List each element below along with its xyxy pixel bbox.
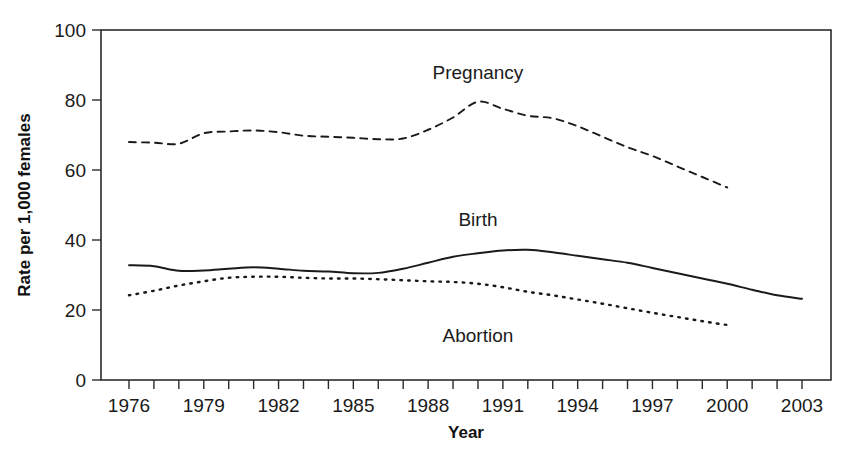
x-tick-label-1985: 1985 bbox=[332, 395, 374, 416]
x-axis-tick-labels: 1976197919821985198819911994199720002003 bbox=[108, 395, 823, 416]
series-label-birth: Birth bbox=[458, 209, 497, 230]
series-line-birth bbox=[129, 250, 802, 299]
line-chart: 020406080100 197619791982198519881991199… bbox=[0, 0, 852, 452]
x-tick-label-1979: 1979 bbox=[183, 395, 225, 416]
series-label-pregnancy: Pregnancy bbox=[433, 62, 524, 83]
series-label-abortion: Abortion bbox=[443, 325, 514, 346]
y-axis-title: Rate per 1,000 females bbox=[15, 113, 34, 296]
x-tick-label-1997: 1997 bbox=[631, 395, 673, 416]
series-annotations: PregnancyBirthAbortion bbox=[433, 62, 524, 346]
y-tick-label-100: 100 bbox=[54, 20, 86, 41]
y-axis-tick-labels: 020406080100 bbox=[54, 20, 86, 391]
x-tick-label-2000: 2000 bbox=[706, 395, 748, 416]
y-tick-label-40: 40 bbox=[65, 230, 86, 251]
y-tick-label-80: 80 bbox=[65, 90, 86, 111]
y-tick-label-60: 60 bbox=[65, 160, 86, 181]
y-axis-ticks bbox=[92, 30, 101, 380]
x-axis-title: Year bbox=[448, 423, 484, 442]
series-line-pregnancy bbox=[129, 102, 727, 188]
x-tick-label-1994: 1994 bbox=[557, 395, 600, 416]
chart-container: 020406080100 197619791982198519881991199… bbox=[0, 0, 852, 452]
x-tick-label-1991: 1991 bbox=[482, 395, 524, 416]
y-tick-label-0: 0 bbox=[75, 370, 86, 391]
series-line-abortion bbox=[129, 277, 727, 325]
x-tick-label-1976: 1976 bbox=[108, 395, 150, 416]
x-tick-label-1988: 1988 bbox=[407, 395, 449, 416]
x-tick-label-2003: 2003 bbox=[781, 395, 823, 416]
x-axis-ticks bbox=[129, 380, 802, 389]
y-tick-label-20: 20 bbox=[65, 300, 86, 321]
x-tick-label-1982: 1982 bbox=[257, 395, 299, 416]
